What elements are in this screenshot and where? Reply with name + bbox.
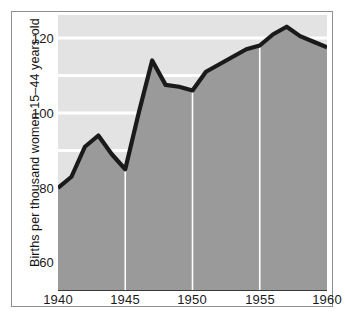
- x-axis-tick-label-1955: 1955: [238, 293, 282, 306]
- y-axis-tick-label-60: 60: [8, 256, 54, 269]
- chart-svg: [58, 15, 327, 290]
- x-axis-tick-label-1960: 1960: [305, 293, 345, 306]
- plot-area: [58, 15, 327, 290]
- x-axis-tick-label-1945: 1945: [103, 293, 147, 306]
- y-axis-tick-label-120: 120: [8, 32, 54, 45]
- chart-figure: Births per thousand women 15–44 years ol…: [0, 0, 345, 329]
- y-axis-tick-label-80: 80: [8, 182, 54, 195]
- x-axis-line: [58, 290, 327, 291]
- x-axis-tick-label-1950: 1950: [170, 293, 214, 306]
- x-axis-tick-label-1940: 1940: [36, 293, 80, 306]
- y-axis-title: Births per thousand women 15–44 years ol…: [28, 27, 42, 267]
- y-axis-tick-label-100: 100: [8, 107, 54, 120]
